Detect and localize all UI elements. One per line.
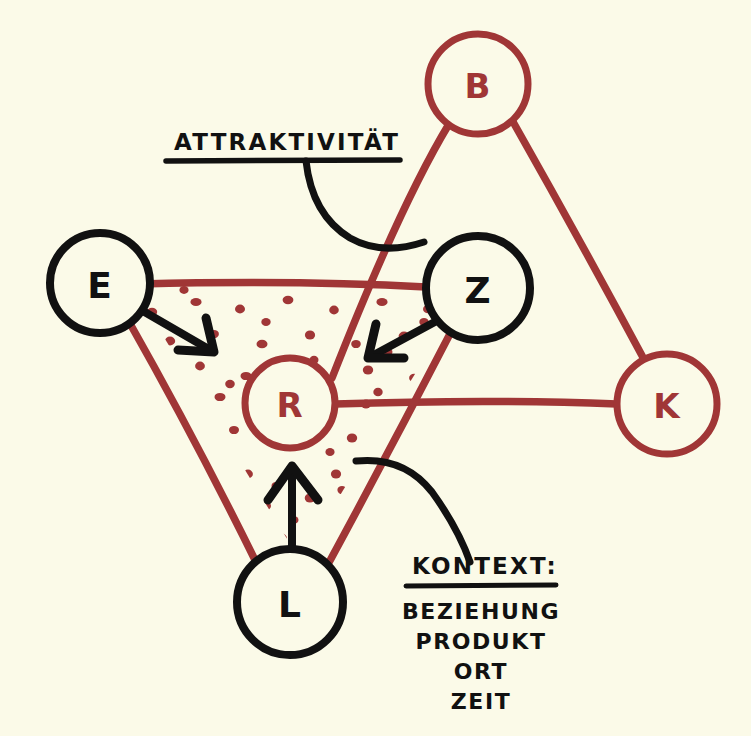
context-item-beziehung: BEZIEHUNG <box>402 599 560 624</box>
node-B[interactable]: B <box>428 34 528 134</box>
context-item-produkt: PRODUKT <box>415 629 546 654</box>
node-L-label: L <box>278 584 302 625</box>
node-E-label: E <box>87 265 113 306</box>
context-underline <box>406 585 556 586</box>
edge-E-Z <box>140 283 426 287</box>
node-Z-label: Z <box>464 270 491 311</box>
diagram-canvas: B E Z R K L ATTRAKTIVITÄT KONTEX <box>0 0 751 736</box>
node-R[interactable]: R <box>245 358 335 448</box>
context-title: KONTEXT: <box>412 553 558 579</box>
node-Z[interactable]: Z <box>426 236 530 340</box>
attractiveness-underline <box>166 160 400 161</box>
node-K[interactable]: K <box>617 354 717 454</box>
edge-R-K <box>335 402 617 405</box>
node-B-label: B <box>465 66 492 106</box>
context-item-ort: ORT <box>454 659 508 684</box>
node-L[interactable]: L <box>237 549 343 655</box>
node-K-label: K <box>653 386 681 426</box>
context-item-zeit: ZEIT <box>451 689 512 714</box>
attractiveness-title: ATTRAKTIVITÄT <box>174 128 400 155</box>
node-R-label: R <box>276 385 303 425</box>
hand-drawn-diagram: B E Z R K L ATTRAKTIVITÄT KONTEX <box>0 0 751 736</box>
node-E[interactable]: E <box>50 233 150 333</box>
